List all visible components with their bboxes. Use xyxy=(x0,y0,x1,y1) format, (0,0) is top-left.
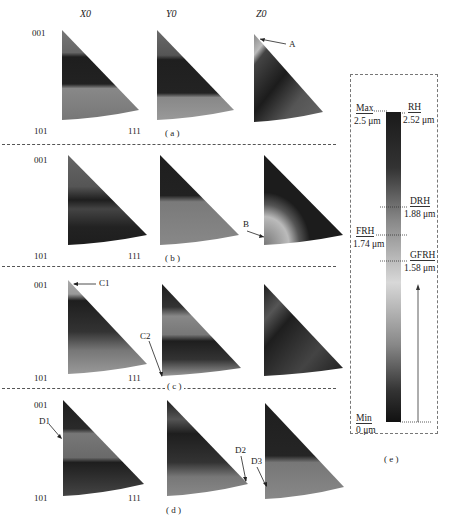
ipf-triangle-d-z0 xyxy=(264,403,348,503)
caption-c: ( c ) xyxy=(165,381,184,391)
ipf-triangle-b-x0 xyxy=(67,155,149,247)
corner-label-101: 101 xyxy=(34,493,48,503)
ipf-triangle-c-y0 xyxy=(161,284,243,376)
corner-label-101: 101 xyxy=(34,251,48,261)
annotation-label-d3: D3 xyxy=(251,456,262,466)
corner-label-001: 001 xyxy=(34,400,48,410)
annotation-label-a: A xyxy=(289,39,296,49)
annotation-label-c2: C2 xyxy=(140,331,151,341)
legend-increase-arrow xyxy=(414,284,422,424)
annotation-arrow-d2 xyxy=(239,455,249,485)
annotation-label-c1: C1 xyxy=(99,278,110,288)
row-divider xyxy=(2,266,336,267)
ipf-triangle-b-y0 xyxy=(159,155,241,247)
corner-label-111: 111 xyxy=(128,126,141,136)
legend-max-label: Max xyxy=(356,103,373,114)
caption-d: ( d ) xyxy=(166,505,181,515)
corner-label-111: 111 xyxy=(128,373,141,383)
annotation-label-b: B xyxy=(243,219,249,229)
ipf-triangle-b-z0 xyxy=(263,155,345,247)
annotation-arrow-b xyxy=(246,230,266,240)
legend-marker-drh-value: 1.88 μm xyxy=(404,209,435,219)
column-header-z0: Z0 xyxy=(256,8,267,19)
caption-a: ( a ) xyxy=(165,128,180,138)
annotation-arrow-c2 xyxy=(147,340,167,380)
caption-e: ( e ) xyxy=(384,454,399,464)
corner-label-101: 101 xyxy=(34,126,48,136)
legend-marker-rh-value: 2.52 μm xyxy=(403,115,434,125)
legend-max-value: 2.5 μm xyxy=(354,116,381,126)
legend-marker-frh-value: 1.74 μm xyxy=(353,239,384,249)
annotation-label-d2: D2 xyxy=(235,445,246,455)
legend-colorbar xyxy=(386,112,402,424)
corner-label-001: 001 xyxy=(34,155,48,165)
legend-marker-gfrh-value: 1.58 μm xyxy=(404,263,435,273)
ipf-triangle-a-x0 xyxy=(61,30,141,122)
column-header-y0: Y0 xyxy=(166,8,177,19)
caption-b: ( b ) xyxy=(165,253,180,263)
annotation-arrow-a xyxy=(258,36,288,48)
ipf-triangle-d-x0 xyxy=(62,400,144,500)
legend-marker-gfrh-name: GFRH xyxy=(410,250,435,261)
ipf-triangle-c-z0 xyxy=(263,284,345,376)
legend-marker-drh-name: DRH xyxy=(410,196,430,207)
legend-min-label: Min xyxy=(356,413,372,424)
ipf-triangle-a-y0 xyxy=(156,30,236,122)
row-divider xyxy=(2,144,336,145)
corner-label-111: 111 xyxy=(128,251,141,261)
ipf-triangle-c-x0 xyxy=(67,280,149,372)
annotation-arrow-d3 xyxy=(256,466,270,490)
corner-label-001: 001 xyxy=(32,28,46,38)
column-header-x0: X0 xyxy=(80,8,91,19)
annotation-label-d1: D1 xyxy=(39,416,50,426)
corner-label-111: 111 xyxy=(128,493,141,503)
corner-label-101: 101 xyxy=(34,373,48,383)
legend-marker-rh-name: RH xyxy=(408,102,421,113)
legend-min-value: 0 μm xyxy=(356,425,376,435)
legend-marker-frh-name: FRH xyxy=(356,226,374,237)
corner-label-001: 001 xyxy=(34,280,48,290)
